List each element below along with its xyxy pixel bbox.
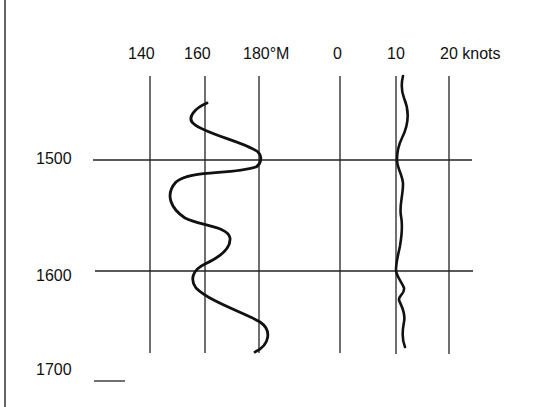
x-tick-140: 140 bbox=[128, 46, 155, 62]
x-tick-180-magnetic: 180°M bbox=[243, 46, 289, 62]
x-tick-10-knots: 10 bbox=[387, 46, 405, 62]
x-tick-160: 160 bbox=[184, 46, 211, 62]
y-tick-1700: 1700 bbox=[36, 362, 72, 378]
x-tick-20-knots: 20 knots bbox=[440, 46, 500, 62]
speed-curve bbox=[396, 76, 408, 347]
x-tick-0-knots: 0 bbox=[333, 46, 342, 62]
chart-frame: 140 160 180°M 0 10 20 knots 1500 1600 17… bbox=[0, 0, 547, 407]
direction-curve bbox=[170, 103, 268, 352]
y-tick-1600: 1600 bbox=[36, 268, 72, 284]
y-tick-1500: 1500 bbox=[36, 151, 72, 167]
